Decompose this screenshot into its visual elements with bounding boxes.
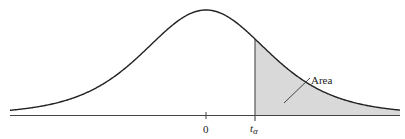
area-label: Area [311,74,332,86]
critical-value-label: tα [250,122,258,136]
center-tick-label: 0 [203,123,209,135]
density-curve [10,10,400,110]
distribution-plot: 0 tα Area [0,0,405,139]
t-distribution-figure: 0 tα Area [0,0,405,139]
